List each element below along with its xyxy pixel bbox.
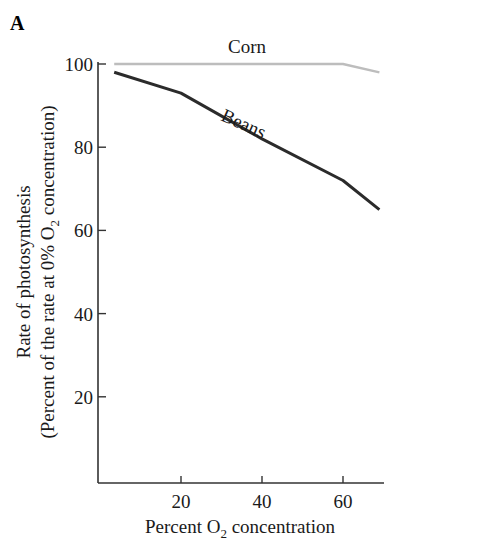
series-label-beans: Beans: [218, 104, 269, 142]
y-tick-label: 20: [74, 387, 93, 408]
y-tick-label: 80: [74, 137, 93, 158]
series-group: [114, 64, 379, 210]
y-axis-title: Rate of photosynthesis (Percent of the r…: [13, 105, 62, 438]
series-label-corn: Corn: [228, 36, 267, 57]
series-line-beans: [114, 72, 379, 209]
y-tick-label: 40: [74, 304, 93, 325]
x-tick-label: 60: [334, 491, 353, 512]
series-line-corn: [114, 64, 379, 72]
x-axis-title-post: concentration: [227, 516, 336, 537]
chart-canvas: A 20406080100 204060 Corn Beans Percent …: [0, 0, 500, 552]
y-axis-title-line1: Rate of photosynthesis: [13, 185, 34, 358]
y-axis-title-line2-post: concentration): [37, 105, 59, 219]
x-ticks: 204060: [172, 476, 353, 512]
x-axis-title-pre: Percent O: [145, 516, 220, 537]
x-tick-label: 40: [253, 491, 272, 512]
x-tick-label: 20: [172, 491, 191, 512]
y-axis-title-line2: (Percent of the rate at 0% O2 concentrat…: [37, 105, 62, 438]
y-tick-label: 100: [65, 54, 94, 75]
y-axis-title-line2-pre: (Percent of the rate at 0% O: [37, 226, 59, 438]
x-axis-title: Percent O2 concentration: [145, 516, 336, 541]
y-ticks: 20406080100: [65, 54, 107, 408]
y-tick-label: 60: [74, 220, 93, 241]
panel-label: A: [10, 12, 25, 34]
